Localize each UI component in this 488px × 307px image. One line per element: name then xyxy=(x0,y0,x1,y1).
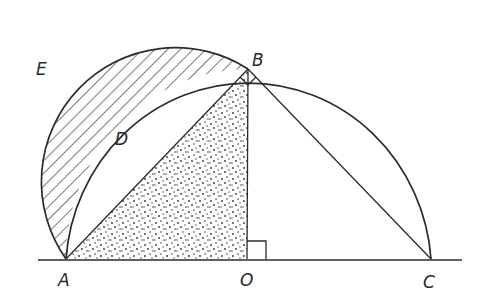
label-c: C xyxy=(423,272,435,292)
label-d: D xyxy=(115,129,128,149)
segment-bc xyxy=(248,69,431,259)
diagram-canvas: E D B A O C xyxy=(0,0,488,307)
label-o: O xyxy=(240,270,253,290)
right-angle-mark-o xyxy=(247,241,266,259)
label-b: B xyxy=(252,50,264,70)
label-a: A xyxy=(57,270,70,290)
lune-diagram: E D B A O C xyxy=(0,0,488,307)
label-e: E xyxy=(36,59,47,79)
